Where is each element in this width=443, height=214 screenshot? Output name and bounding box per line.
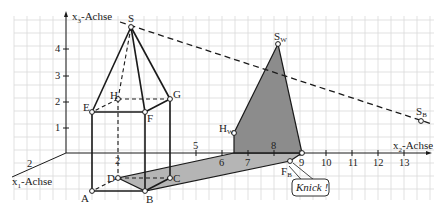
x3-tick-4: 4 <box>55 43 61 54</box>
point-label-d: D <box>107 172 115 184</box>
x3-tick-1: 1 <box>55 122 60 133</box>
wall-shadow <box>234 44 302 153</box>
x3-tick-3: 3 <box>55 70 60 81</box>
x2-tick-8: 8 <box>271 140 276 151</box>
point-label-c: C <box>173 172 180 184</box>
point-label-g: G <box>173 88 181 100</box>
x2-tick-11: 11 <box>348 157 358 168</box>
point-label-e: E <box>83 101 90 113</box>
point-label-s: S <box>128 12 134 24</box>
point-label-sw: SW <box>274 30 287 44</box>
x2-tick-2: 2 <box>115 155 120 166</box>
x2-tick-9: 9 <box>299 157 304 168</box>
x1-tick-2: 2 <box>27 158 32 169</box>
x1-axis-label: x1-Achse <box>12 175 52 190</box>
x2-tick-13: 13 <box>399 157 410 168</box>
x2-tick-12: 12 <box>373 157 384 168</box>
x2-tick-7: 7 <box>245 157 250 168</box>
point-label-sb: SB <box>416 105 427 119</box>
point-label-b: B <box>146 193 153 205</box>
shadow-projection-diagram: x3-Achse x2-Achse x1-Achse 1 2 3 4 2 2 5… <box>0 0 443 214</box>
diagram-stage: x3-Achse x2-Achse x1-Achse 1 2 3 4 2 2 5… <box>0 0 443 214</box>
x2-tick-5: 5 <box>193 140 198 151</box>
point-label-h: H <box>110 89 118 101</box>
x2-tick-10: 10 <box>321 157 332 168</box>
knick-callout-text: Knick ! <box>295 181 328 193</box>
x2-tick-6: 6 <box>219 157 224 168</box>
point-label-f: F <box>147 112 153 124</box>
point-label-a: A <box>81 192 89 204</box>
x3-tick-2: 2 <box>55 96 60 107</box>
